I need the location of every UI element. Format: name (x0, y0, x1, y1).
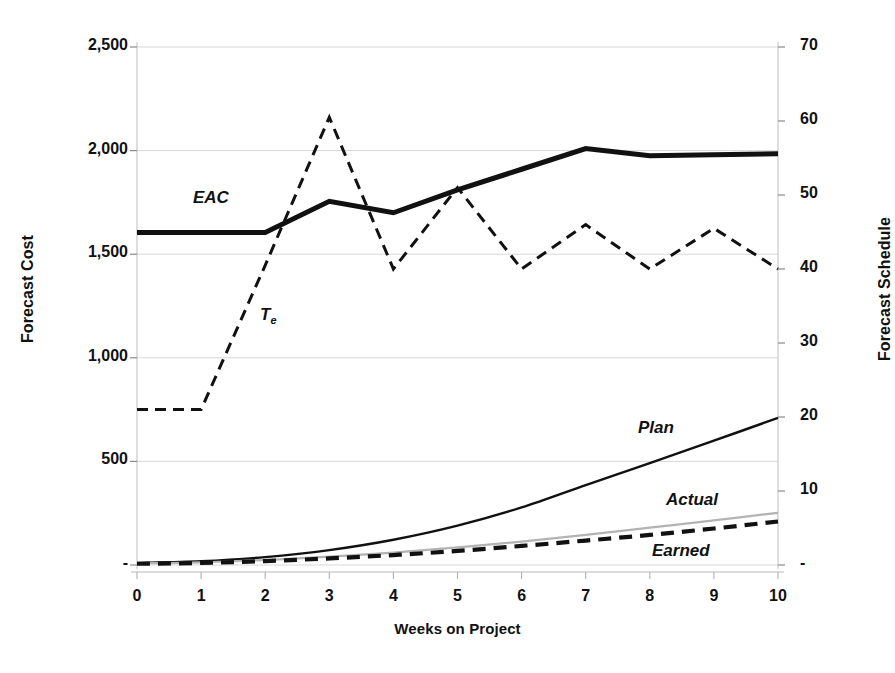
series-label-te: Te (260, 305, 277, 326)
x-tick-label: 8 (630, 587, 670, 605)
y-tick-label-right: 40 (800, 258, 860, 276)
x-tick-label: 1 (181, 587, 221, 605)
y-axis-left-title: Forecast Cost (19, 199, 37, 379)
y-tick-label-left: 500 (46, 450, 128, 468)
y-tick-label-left: 1,000 (46, 347, 128, 365)
series-label-eac: EAC (193, 188, 229, 208)
x-tick-label: 9 (694, 587, 734, 605)
series-label-subscript: e (270, 314, 276, 326)
x-tick-label: 2 (245, 587, 285, 605)
chart-plot-area (0, 0, 895, 673)
x-tick-label: 4 (373, 587, 413, 605)
x-tick-label: 3 (309, 587, 349, 605)
forecast-chart: Forecast Cost Forecast Schedule Weeks on… (0, 0, 895, 673)
gridlines-group (137, 47, 778, 565)
y-tick-label-left: 2,000 (46, 140, 128, 158)
series-line-te (137, 117, 778, 409)
series-label-earned: Earned (652, 541, 710, 561)
x-tick-label: 10 (758, 587, 798, 605)
series-label-plan: Plan (638, 418, 674, 438)
x-tick-label: 7 (566, 587, 606, 605)
y-tick-label-left: 2,500 (46, 36, 128, 54)
x-axis-title: Weeks on Project (137, 620, 778, 637)
y-tick-label-right: 70 (800, 36, 860, 54)
y-tick-label-right: 10 (800, 480, 860, 498)
y-tick-label-left: - (46, 554, 128, 572)
y-tick-label-right: - (800, 554, 860, 572)
series-line-eac (137, 149, 778, 233)
x-tick-label: 6 (502, 587, 542, 605)
y-tick-label-left: 1,500 (46, 243, 128, 261)
x-tick-label: 0 (117, 587, 157, 605)
series-label-actual: Actual (666, 490, 718, 510)
y-tick-label-right: 50 (800, 184, 860, 202)
y-axis-right-title: Forecast Schedule (876, 199, 894, 379)
y-tick-label-right: 30 (800, 332, 860, 350)
x-tick-label: 5 (438, 587, 478, 605)
y-tick-label-right: 20 (800, 406, 860, 424)
y-tick-label-right: 60 (800, 110, 860, 128)
